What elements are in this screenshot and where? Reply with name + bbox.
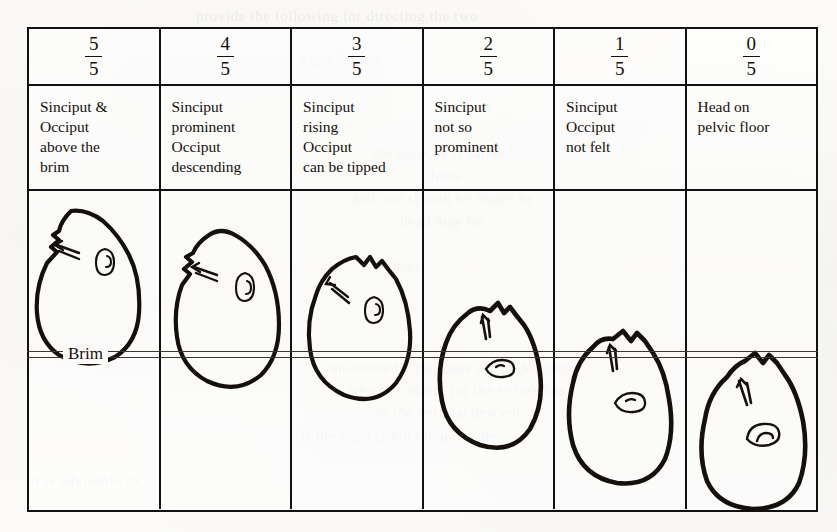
fraction-bar [743,56,760,58]
fraction-bar [480,56,497,58]
fraction-bar [85,56,102,58]
description-line: Sinciput [566,97,685,117]
header-cell: 2 5 [424,29,556,84]
fraction-numerator: 5 [89,34,99,55]
fraction-0-5: 0 5 [687,29,817,84]
fetal-head-drawing-2-5 [424,191,556,509]
description-line: Sinciput [303,97,422,117]
header-cell: 0 5 [687,29,817,84]
description-line: Sinciput [172,97,291,117]
description-line: pelvic floor [698,117,817,137]
fraction-denominator: 5 [747,59,757,79]
header-cell: 5 5 [29,29,161,84]
description-line: Sinciput & [40,97,159,117]
fetal-head-drawing-0-5 [687,191,819,509]
description-line: Occiput [566,117,685,137]
fraction-denominator: 5 [484,59,494,79]
head-drawing-cell-1-5 [555,191,687,509]
brim-label: Brim [63,344,108,364]
description-line: Sinciput [435,97,554,117]
description-line: Occiput [40,117,159,137]
fraction-denominator: 5 [221,59,231,79]
header-cell: 4 5 [161,29,293,84]
description-line: descending [172,157,291,177]
description-line: not felt [566,137,685,157]
description-line: brim [40,157,159,177]
fetal-head-drawing-3-5 [292,191,424,509]
description-text-4-5: SinciputprominentOcciputdescending [161,86,291,178]
fraction-1-5: 1 5 [555,29,685,84]
fraction-denominator: 5 [89,59,99,79]
fraction-5-5: 5 5 [29,29,159,84]
description-cell: SinciputprominentOcciputdescending [161,86,293,189]
description-line: prominent [172,117,291,137]
header-cell: 3 5 [292,29,424,84]
fraction-denominator: 5 [352,59,362,79]
fraction-denominator: 5 [615,59,625,79]
head-drawing-cell-3-5 [292,191,424,509]
description-text-0-5: Head onpelvic floor [687,86,817,137]
description-text-1-5: SinciputOcciputnot felt [555,86,685,157]
fetal-head-descent-chart: 5 5 4 5 3 5 2 5 [27,27,818,512]
description-text-5-5: Sinciput &Occiputabove thebrim [29,86,159,178]
description-cell: SinciputrisingOcciputcan be tipped [292,86,424,189]
head-illustration-row [29,191,816,509]
fraction-4-5: 4 5 [161,29,291,84]
fraction-numerator: 1 [615,34,625,55]
fraction-bar [611,56,628,58]
description-cell: Head onpelvic floor [687,86,817,189]
description-cell: Sinciputnot soprominent [424,86,556,189]
header-cell: 1 5 [555,29,687,84]
fraction-bar [348,56,365,58]
fraction-numerator: 4 [221,34,231,55]
description-line: above the [40,137,159,157]
description-line: rising [303,117,422,137]
fraction-numerator: 2 [484,34,494,55]
description-line: Occiput [303,137,422,157]
description-line: Occiput [172,137,291,157]
fraction-2-5: 2 5 [424,29,554,84]
head-drawing-cell-2-5 [424,191,556,509]
description-cell: Sinciput &Occiputabove thebrim [29,86,161,189]
head-drawing-cell-0-5 [687,191,817,509]
fraction-bar [217,56,234,58]
description-row: Sinciput &Occiputabove thebrim Sinciputp… [29,86,816,191]
description-line: Head on [698,97,817,117]
description-line: prominent [435,137,554,157]
description-text-3-5: SinciputrisingOcciputcan be tipped [292,86,422,178]
description-cell: SinciputOcciputnot felt [555,86,687,189]
description-text-2-5: Sinciputnot soprominent [424,86,554,157]
head-drawing-cell-4-5 [161,191,293,509]
fraction-numerator: 0 [747,34,757,55]
fraction-numerator: 3 [352,34,362,55]
fraction-header-row: 5 5 4 5 3 5 2 5 [29,29,816,86]
fetal-head-drawing-4-5 [161,191,293,509]
fetal-head-drawing-1-5 [555,191,687,509]
description-line: can be tipped [303,157,422,177]
description-line: not so [435,117,554,137]
fraction-3-5: 3 5 [292,29,422,84]
